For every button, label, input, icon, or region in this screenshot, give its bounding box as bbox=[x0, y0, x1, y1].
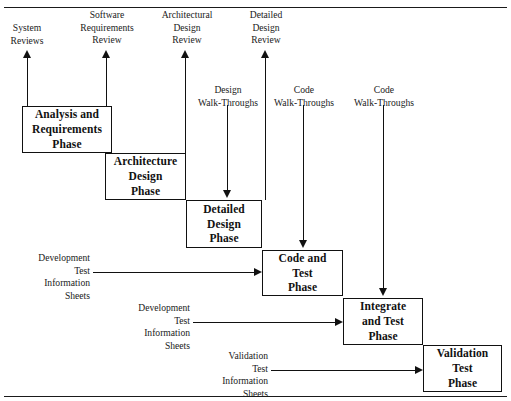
validation-test-information-sheets-arrow-head bbox=[415, 366, 423, 374]
development-test-information-sheets-2-arrow-line bbox=[193, 322, 337, 323]
phase-label-line: Design bbox=[111, 169, 180, 184]
system-reviews-label: System Reviews bbox=[10, 22, 43, 47]
phase-label-line: Analysis and bbox=[29, 107, 105, 122]
waterfall-diagram: System Reviews Software Requirements Rev… bbox=[0, 0, 511, 401]
phase-label-line: Phase bbox=[276, 280, 330, 295]
phase-label-line: Requirements bbox=[29, 122, 105, 137]
phase-label-line: Phase bbox=[200, 231, 248, 246]
development-test-information-sheets-1-arrow-line bbox=[93, 272, 256, 273]
code-walk-throughs-2-arrow-head bbox=[379, 288, 387, 296]
detailed-design-review-label: Detailed Design Review bbox=[250, 9, 283, 47]
detailed-design-review-arrow-head bbox=[261, 50, 269, 58]
code-walk-throughs-2-arrow-line bbox=[383, 105, 384, 289]
detailed-design-review-arrow-line bbox=[265, 57, 266, 200]
architectural-design-review-arrow-line bbox=[185, 57, 186, 153]
phase-label-line: Phase bbox=[434, 376, 492, 391]
phase-box-architecture-design-phase[interactable]: Architecture Design Phase bbox=[105, 153, 186, 200]
software-requirements-review-arrow-head bbox=[102, 50, 110, 58]
development-test-information-sheets-2-arrow-head bbox=[335, 318, 343, 326]
system-reviews-arrow-head bbox=[23, 50, 31, 58]
phase-box-validation-test-phase[interactable]: Validation Test Phase bbox=[423, 345, 502, 392]
phase-label-line: Architecture bbox=[111, 154, 180, 169]
code-walk-throughs-1-arrow-line bbox=[303, 105, 304, 241]
phase-box-analysis-and-requirements-phase[interactable]: Analysis and Requirements Phase bbox=[22, 106, 112, 153]
development-test-information-sheets-1-arrow-head bbox=[254, 268, 262, 276]
software-requirements-review-arrow-line bbox=[106, 57, 107, 106]
phase-label-line: Test bbox=[434, 361, 492, 376]
phase-label-line: Test bbox=[276, 266, 330, 281]
phase-label-line: Design bbox=[200, 217, 248, 232]
phase-label-line: Integrate bbox=[357, 299, 409, 314]
phase-label-line: Phase bbox=[111, 184, 180, 199]
architectural-design-review-label: Architectural Design Review bbox=[162, 9, 213, 47]
phase-label-line: and Test bbox=[357, 314, 409, 329]
development-test-information-sheets-2-label: Development Test Information Sheets bbox=[138, 302, 190, 353]
phase-label-line: Phase bbox=[357, 329, 409, 344]
design-walk-throughs-arrow-line bbox=[227, 105, 228, 191]
phase-label-line: Phase bbox=[29, 137, 105, 152]
code-walk-throughs-1-arrow-head bbox=[299, 240, 307, 248]
phase-label-line: Validation bbox=[434, 346, 492, 361]
validation-test-information-sheets-arrow-line bbox=[271, 370, 417, 371]
figure-top-rule bbox=[4, 7, 507, 8]
development-test-information-sheets-1-label: Development Test Information Sheets bbox=[38, 252, 90, 303]
code-walk-throughs-1-label: Code Walk-Throughs bbox=[274, 84, 334, 109]
code-walk-throughs-2-label: Code Walk-Throughs bbox=[354, 84, 414, 109]
software-requirements-review-label: Software Requirements Review bbox=[80, 9, 133, 47]
phase-box-detailed-design-phase[interactable]: Detailed Design Phase bbox=[186, 200, 262, 248]
phase-label-line: Detailed bbox=[200, 202, 248, 217]
phase-box-integrate-and-test-phase[interactable]: Integrate and Test Phase bbox=[343, 298, 423, 345]
architectural-design-review-arrow-head bbox=[181, 50, 189, 58]
design-walk-throughs-arrow-head bbox=[223, 190, 231, 198]
phase-box-code-and-test-phase[interactable]: Code and Test Phase bbox=[262, 250, 343, 296]
validation-test-information-sheets-label: Validation Test Information Sheets bbox=[222, 350, 268, 401]
system-reviews-arrow-line bbox=[27, 57, 28, 106]
design-walk-throughs-label: Design Walk-Throughs bbox=[198, 84, 258, 109]
phase-label-line: Code and bbox=[276, 251, 330, 266]
